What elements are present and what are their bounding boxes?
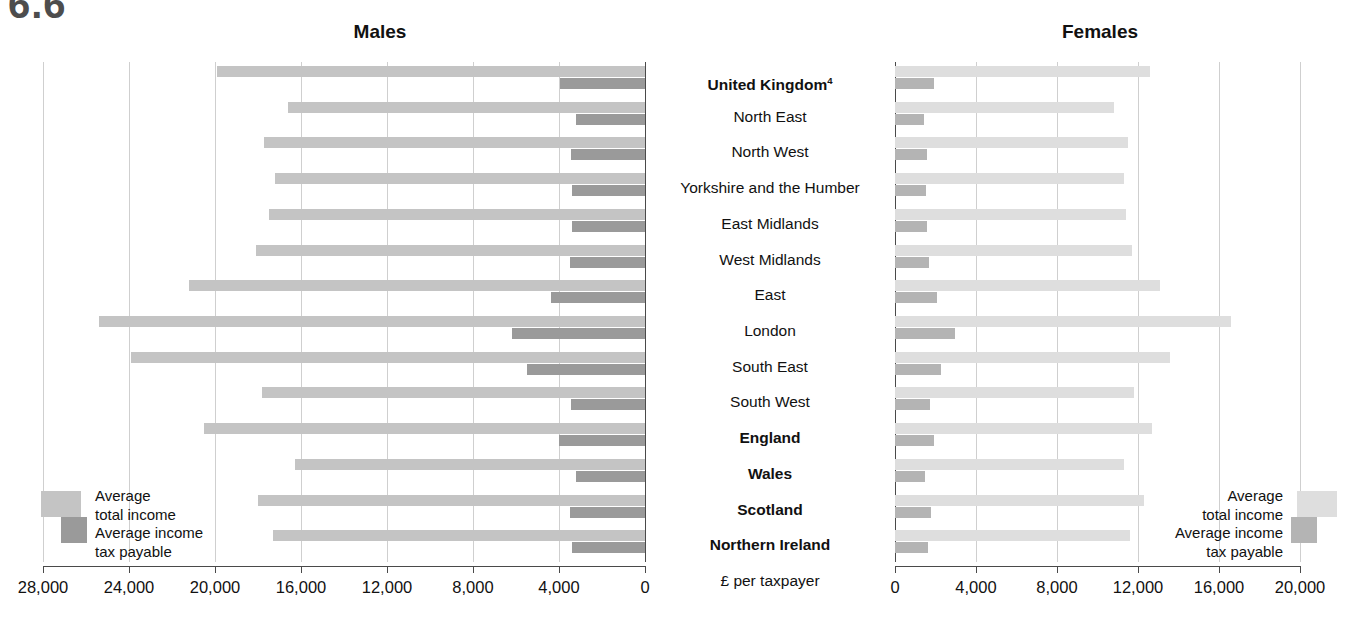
bar-income-tax-payable <box>895 435 934 446</box>
category-label: South East <box>650 348 890 386</box>
bar-total-income <box>264 137 645 148</box>
category-label: West Midlands <box>650 241 890 279</box>
bar-total-income <box>895 530 1130 541</box>
bar-row <box>43 169 645 207</box>
bar-total-income <box>189 280 645 291</box>
axis-line <box>645 62 646 562</box>
axis-tick-label: 20,000 <box>1255 578 1345 597</box>
axis-tick-label: 28,000 <box>0 578 88 597</box>
category-label: South West <box>650 383 890 421</box>
unit-label: £ per taxpayer <box>650 572 890 590</box>
bar-row <box>895 205 1300 243</box>
bar-income-tax-payable <box>576 114 645 125</box>
bar-row <box>895 133 1300 171</box>
bar-row <box>43 62 645 100</box>
bar-income-tax-payable <box>895 292 937 303</box>
axis-tick <box>1219 566 1220 573</box>
bar-total-income <box>895 387 1134 398</box>
bar-total-income <box>269 209 645 220</box>
panel-title-females: Females <box>900 21 1300 43</box>
category-label-column: United Kingdom4North EastNorth WestYorks… <box>650 62 890 562</box>
axis-tick <box>1057 566 1058 573</box>
legend-label-total-income-line2: total income <box>95 506 176 525</box>
axis-tick-label: 8,000 <box>428 578 518 597</box>
bar-row <box>43 241 645 279</box>
legend-label-total-income-line2-f: total income <box>1202 506 1283 525</box>
bar-total-income <box>131 352 645 363</box>
bar-income-tax-payable <box>895 114 924 125</box>
legend-label-total-income-females: Average total income <box>1202 487 1283 524</box>
category-label: East Midlands <box>650 205 890 243</box>
bar-row <box>895 348 1300 386</box>
bar-income-tax-payable <box>551 292 645 303</box>
bar-row <box>895 276 1300 314</box>
bar-income-tax-payable <box>895 471 925 482</box>
bar-total-income <box>895 423 1152 434</box>
bar-row <box>895 169 1300 207</box>
bar-total-income <box>895 495 1144 506</box>
category-label: London <box>650 312 890 350</box>
bar-row <box>43 348 645 386</box>
axis-tick <box>976 566 977 573</box>
bar-total-income <box>895 102 1114 113</box>
panel-title-males: Males <box>180 21 580 43</box>
bar-total-income <box>895 280 1160 291</box>
legend-label-tax-payable-line2-f: tax payable <box>1175 543 1283 562</box>
bar-row <box>43 276 645 314</box>
axis-tick-label: 20,000 <box>170 578 260 597</box>
bar-total-income <box>258 495 645 506</box>
axis-tick <box>895 566 896 573</box>
category-label: Wales <box>650 455 890 493</box>
legend-males: Average total income Average income tax … <box>33 487 263 565</box>
legend-label-tax-payable-line1-f: Average income <box>1175 524 1283 543</box>
category-label: Yorkshire and the Humber <box>650 169 890 207</box>
bar-income-tax-payable <box>895 507 931 518</box>
category-label: East <box>650 276 890 314</box>
bar-total-income <box>895 66 1150 77</box>
bar-income-tax-payable <box>570 257 645 268</box>
axis-tick <box>1138 566 1139 573</box>
category-label: North East <box>650 98 890 136</box>
bar-row <box>895 383 1300 421</box>
bar-income-tax-payable <box>572 221 645 232</box>
legend-label-tax-payable-line2: tax payable <box>95 543 203 562</box>
category-label-footnote-marker: 4 <box>827 75 832 86</box>
bar-row <box>895 98 1300 136</box>
bar-row <box>43 419 645 457</box>
bar-income-tax-payable <box>895 221 927 232</box>
bar-income-tax-payable <box>512 328 645 339</box>
bar-income-tax-payable <box>560 78 645 89</box>
bar-income-tax-payable <box>527 364 645 375</box>
bar-total-income <box>895 316 1231 327</box>
bar-total-income <box>895 352 1170 363</box>
bar-total-income <box>275 173 645 184</box>
bar-income-tax-payable <box>895 328 955 339</box>
bar-income-tax-payable <box>572 542 645 553</box>
category-label: England <box>650 419 890 457</box>
bar-row <box>895 312 1300 350</box>
bar-total-income <box>217 66 645 77</box>
category-label: United Kingdom4 <box>650 62 890 100</box>
legend-swatch-total-income-females <box>1297 491 1337 517</box>
axis-tick-label: 4,000 <box>514 578 604 597</box>
legend-label-total-income-line1-f: Average <box>1202 487 1283 506</box>
bar-income-tax-payable <box>895 78 934 89</box>
bar-income-tax-payable <box>895 542 928 553</box>
axis-tick-label: 12,000 <box>1093 578 1183 597</box>
bar-income-tax-payable <box>895 257 929 268</box>
bar-row <box>895 62 1300 100</box>
bar-income-tax-payable <box>572 185 645 196</box>
bar-row <box>43 383 645 421</box>
axis-tick-label: 16,000 <box>1174 578 1264 597</box>
category-label: Northern Ireland <box>650 526 890 564</box>
axis-tick <box>129 566 130 573</box>
bar-income-tax-payable <box>571 399 645 410</box>
bar-row <box>43 98 645 136</box>
bar-income-tax-payable <box>895 149 927 160</box>
legend-label-tax-payable-males: Average income tax payable <box>95 524 203 561</box>
bar-total-income <box>262 387 645 398</box>
bar-total-income <box>273 530 645 541</box>
axis-tick-label: 8,000 <box>1012 578 1102 597</box>
axis-tick <box>1300 566 1301 573</box>
bar-total-income <box>895 137 1128 148</box>
